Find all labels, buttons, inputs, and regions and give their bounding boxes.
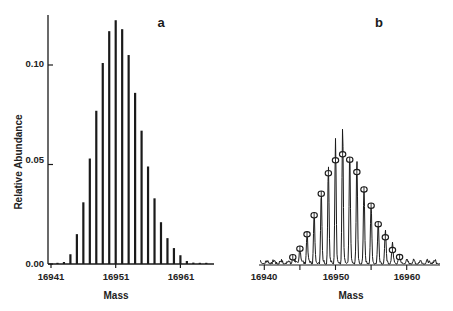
bar-16964 <box>199 263 201 264</box>
bar-16950 <box>108 31 110 264</box>
bar-16946 <box>82 202 84 264</box>
panel-b-chart: 16940 16950 16960 Mass b <box>251 15 440 301</box>
bar-16965 <box>205 263 207 264</box>
bar-16942 <box>56 263 58 264</box>
figure: 0.00 0.05 0.10 16941 16951 16961 Mass Re… <box>0 0 453 311</box>
bar-16963 <box>192 263 194 264</box>
x-tick-label-a-16941: 16941 <box>38 271 65 282</box>
bar-16953 <box>128 55 130 264</box>
bar-16961 <box>179 255 181 264</box>
bar-16952 <box>121 29 123 264</box>
y-tick-label-005: 0.05 <box>26 154 45 165</box>
x-tick-label-a-16951: 16951 <box>103 271 130 282</box>
bar-16944 <box>69 254 71 264</box>
panel-b-measured-trace <box>260 129 440 264</box>
bar-16949 <box>102 63 104 264</box>
bar-16945 <box>76 234 78 264</box>
y-tick-label-0: 0.00 <box>26 258 45 269</box>
bar-16954 <box>134 93 136 264</box>
bar-16951 <box>115 20 117 264</box>
bar-16957 <box>153 198 155 264</box>
panel-b-x-axis-title: Mass <box>338 290 363 301</box>
x-tick-label-a-16961: 16961 <box>168 271 195 282</box>
panel-a-bars <box>56 20 207 264</box>
x-tick-label-b-16940: 16940 <box>251 271 277 282</box>
panel-b-x-ticks <box>264 265 406 270</box>
panel-a-x-axis-title: Mass <box>103 290 128 301</box>
panel-a-y-axis-title: Relative Abundance <box>13 114 24 210</box>
bar-16960 <box>173 248 175 264</box>
bar-16948 <box>95 111 97 264</box>
bar-16959 <box>166 238 168 264</box>
bar-16958 <box>160 222 162 264</box>
bar-16962 <box>186 261 188 264</box>
panel-b-letter: b <box>375 15 383 30</box>
bar-16947 <box>89 159 91 264</box>
y-tick-label-010: 0.10 <box>26 58 45 69</box>
bar-16956 <box>147 166 149 264</box>
x-tick-label-b-16950: 16950 <box>323 271 349 282</box>
bar-16943 <box>63 262 65 264</box>
bar-16955 <box>140 131 142 264</box>
panel-a-chart: 0.00 0.05 0.10 16941 16951 16961 Mass Re… <box>13 15 214 301</box>
panel-a-y-ticks <box>48 65 53 264</box>
x-tick-label-b-16960: 16960 <box>394 271 420 282</box>
panel-a-letter: a <box>157 15 165 30</box>
